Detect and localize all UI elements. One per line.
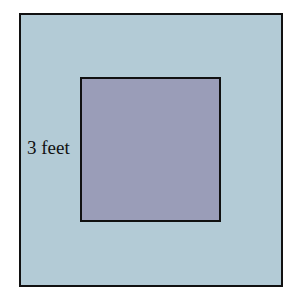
inner-square — [80, 77, 221, 222]
side-length-label: 3 feet — [27, 137, 70, 159]
